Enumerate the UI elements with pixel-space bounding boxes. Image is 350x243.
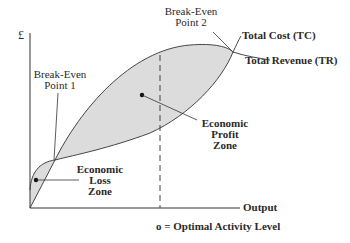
optimal-activity-level-label: o = Optimal Activity Level (156, 221, 280, 232)
break-even-point-2-label: Break-Even Point 2 (163, 6, 219, 28)
economic-profit-zone-label: Economic Profit Zone (195, 118, 255, 151)
loss-zone-line3: Zone (70, 186, 130, 197)
x-axis-label: Output (243, 202, 277, 213)
total-cost-label: Total Cost (TC) (242, 30, 316, 41)
break-even-point-1-line2: Point 1 (32, 80, 88, 91)
break-even-point-1-leader (54, 93, 58, 160)
total-revenue-label: Total Revenue (TR) (245, 55, 337, 66)
break-even-point-2-line2: Point 2 (163, 17, 219, 28)
economic-loss-zone-label: Economic Loss Zone (70, 164, 130, 197)
profit-zone-line3: Zone (195, 140, 255, 151)
y-axis-label: £ (18, 30, 24, 41)
break-even-point-1-label: Break-Even Point 1 (32, 69, 88, 91)
